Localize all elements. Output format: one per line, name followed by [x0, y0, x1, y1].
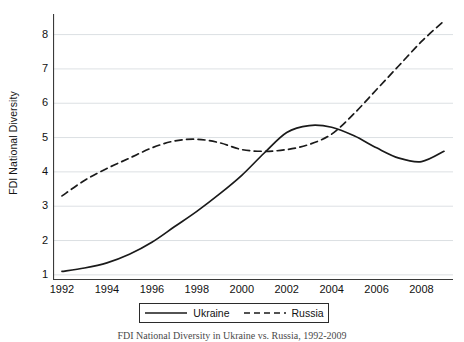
- series-line-russia: [62, 21, 444, 196]
- x-tick-label: 2004: [309, 283, 355, 296]
- legend-label-ukraine: Ukraine: [193, 308, 229, 319]
- legend-item-ukraine[interactable]: Ukraine: [144, 308, 229, 319]
- chart-legend: Ukraine Russia: [139, 303, 329, 323]
- data-series: [62, 21, 444, 272]
- x-tick-label: 1996: [129, 283, 175, 296]
- y-axis-title-text: FDI National Diversity: [7, 91, 19, 195]
- y-tick-label: 3: [26, 200, 48, 211]
- figure-caption: FDI National Diversity in Ukraine vs. Ru…: [0, 330, 464, 342]
- plot-area: [53, 14, 453, 280]
- x-tick-label: 1992: [39, 283, 85, 296]
- x-tick-label: 1994: [84, 283, 130, 296]
- y-axis-tick-labels: 12345678: [22, 14, 48, 280]
- chart-canvas: [53, 14, 453, 280]
- legend-dashed-line-icon: [243, 309, 287, 317]
- y-tick-label: 5: [26, 132, 48, 143]
- y-tick-label: 6: [26, 97, 48, 108]
- series-line-ukraine: [62, 125, 444, 271]
- y-tick-label: 8: [26, 29, 48, 40]
- legend-label-russia: Russia: [292, 308, 324, 319]
- y-tick-label: 4: [26, 166, 48, 177]
- x-tick-label: 2006: [354, 283, 400, 296]
- x-tick-label: 2000: [219, 283, 265, 296]
- y-axis-title: FDI National Diversity: [2, 0, 24, 285]
- y-tick-label: 7: [26, 63, 48, 74]
- legend-solid-line-icon: [144, 309, 188, 317]
- legend-item-russia[interactable]: Russia: [243, 308, 324, 319]
- gridlines: [53, 35, 453, 275]
- x-axis-tick-labels: 199219941996199820002002200420062008: [53, 283, 453, 299]
- y-tick-label: 1: [26, 269, 48, 280]
- y-tick-label: 2: [26, 235, 48, 246]
- x-tick-label: 2008: [399, 283, 445, 296]
- axis-ticks: [53, 35, 422, 280]
- x-tick-label: 1998: [174, 283, 220, 296]
- x-tick-label: 2002: [264, 283, 310, 296]
